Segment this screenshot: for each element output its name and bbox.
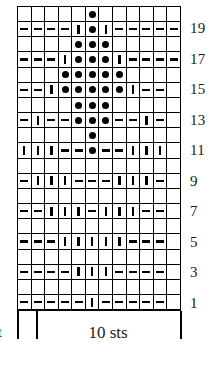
chart-cell bbox=[99, 204, 113, 218]
purl-stitch-icon bbox=[61, 119, 69, 121]
knit-stitch-icon bbox=[145, 116, 147, 125]
repeat-width-label: 10 sts bbox=[36, 324, 180, 341]
chart-cell bbox=[140, 68, 154, 82]
chart-cell bbox=[154, 234, 168, 248]
purl-stitch-icon bbox=[156, 58, 164, 60]
row-number-label: 11 bbox=[190, 143, 223, 158]
knit-stitch-icon bbox=[105, 207, 107, 216]
bobble-icon bbox=[89, 132, 96, 139]
chart-cell bbox=[86, 128, 100, 142]
chart-cell bbox=[86, 113, 100, 127]
chart-cell bbox=[86, 83, 100, 97]
purl-stitch-icon bbox=[75, 149, 83, 151]
chart-cell bbox=[154, 159, 168, 173]
purl-stitch-icon bbox=[170, 58, 178, 60]
chart-cell bbox=[167, 83, 180, 97]
chart-cell bbox=[99, 68, 113, 82]
chart-cell bbox=[45, 219, 59, 233]
chart-cell bbox=[32, 234, 46, 248]
chart-cell bbox=[72, 250, 86, 264]
chart-cell bbox=[140, 234, 154, 248]
chart-cell bbox=[72, 219, 86, 233]
purl-stitch-icon bbox=[102, 301, 110, 303]
chart-cell bbox=[86, 22, 100, 36]
chart-cell bbox=[86, 189, 100, 203]
purl-stitch-icon bbox=[47, 28, 55, 30]
chart-cell bbox=[86, 143, 100, 157]
chart-cell bbox=[45, 143, 59, 157]
knit-stitch-icon bbox=[145, 146, 147, 155]
chart-cell bbox=[18, 22, 32, 36]
chart-cell bbox=[127, 280, 141, 294]
chart-cell bbox=[127, 143, 141, 157]
chart-cell bbox=[167, 22, 180, 36]
bobble-icon bbox=[89, 147, 96, 154]
bobble-icon bbox=[62, 71, 69, 78]
purl-stitch-icon bbox=[75, 180, 83, 182]
bobble-icon bbox=[75, 117, 82, 124]
chart-cell bbox=[167, 189, 180, 203]
chart-cell bbox=[32, 98, 46, 112]
purl-stitch-icon bbox=[88, 180, 96, 182]
chart-cell bbox=[59, 159, 73, 173]
knit-stitch-icon bbox=[50, 207, 52, 216]
chart-cell bbox=[45, 234, 59, 248]
bobble-icon bbox=[89, 26, 96, 33]
chart-cell bbox=[59, 189, 73, 203]
chart-cell bbox=[167, 113, 180, 127]
row-number-label: 7 bbox=[190, 204, 223, 219]
knit-stitch-icon bbox=[37, 146, 39, 155]
purl-stitch-icon bbox=[20, 180, 28, 182]
chart-cell bbox=[167, 98, 180, 112]
purl-stitch-icon bbox=[142, 301, 150, 303]
purl-stitch-icon bbox=[61, 149, 69, 151]
chart-cell bbox=[18, 113, 32, 127]
chart-row bbox=[18, 203, 180, 219]
chart-cell bbox=[154, 280, 168, 294]
knit-stitch-icon bbox=[37, 176, 39, 185]
chart-cell bbox=[113, 189, 127, 203]
chart-cell bbox=[113, 52, 127, 66]
bobble-icon bbox=[116, 86, 123, 93]
chart-cell bbox=[154, 68, 168, 82]
chart-cell bbox=[140, 250, 154, 264]
chart-cell bbox=[86, 37, 100, 51]
chart-cell bbox=[86, 280, 100, 294]
chart-cell bbox=[113, 83, 127, 97]
chart-cell bbox=[72, 174, 86, 188]
chart-row bbox=[18, 37, 180, 51]
chart-cell bbox=[167, 52, 180, 66]
row-number-label: 13 bbox=[190, 113, 223, 128]
row-number-label: 19 bbox=[190, 21, 223, 36]
chart-cell bbox=[45, 22, 59, 36]
chart-cell bbox=[99, 7, 113, 21]
bobble-icon bbox=[89, 11, 96, 18]
chart-cell bbox=[127, 113, 141, 127]
chart-cell bbox=[140, 280, 154, 294]
purl-stitch-icon bbox=[34, 240, 42, 242]
chart-cell bbox=[59, 280, 73, 294]
chart-cell bbox=[140, 189, 154, 203]
chart-cell bbox=[72, 128, 86, 142]
chart-cell bbox=[154, 219, 168, 233]
chart-cell bbox=[18, 250, 32, 264]
chart-cell bbox=[154, 113, 168, 127]
chart-cell bbox=[140, 52, 154, 66]
chart-cell bbox=[72, 234, 86, 248]
chart-cell bbox=[32, 37, 46, 51]
chart-cell bbox=[59, 143, 73, 157]
bobble-icon bbox=[89, 56, 96, 63]
chart-cell bbox=[127, 250, 141, 264]
purl-stitch-icon bbox=[142, 271, 150, 273]
bobble-icon bbox=[102, 117, 109, 124]
chart-cell bbox=[59, 52, 73, 66]
chart-cell bbox=[99, 37, 113, 51]
chart-cell bbox=[167, 295, 180, 309]
chart-cell bbox=[18, 98, 32, 112]
chart-cell bbox=[45, 174, 59, 188]
chart-cell bbox=[154, 204, 168, 218]
chart-cell bbox=[99, 128, 113, 142]
chart-cell bbox=[99, 234, 113, 248]
chart-cell bbox=[140, 83, 154, 97]
chart-cell bbox=[18, 52, 32, 66]
